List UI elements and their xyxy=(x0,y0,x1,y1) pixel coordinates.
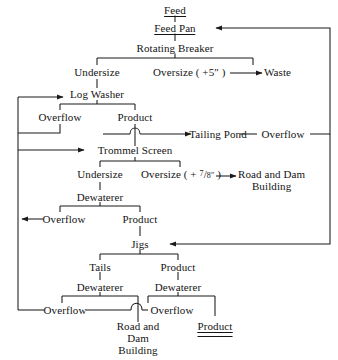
node-jigs: Jigs xyxy=(131,238,149,250)
node-dewaterer-tails: Dewaterer xyxy=(77,281,124,293)
node-feed: Feed xyxy=(164,4,186,17)
node-rotating-breaker: Rotating Breaker xyxy=(136,42,213,54)
node-product-dewaterer1: Product xyxy=(123,213,158,225)
line-trommel-split xyxy=(100,157,180,167)
node-product-jigs: Product xyxy=(161,261,196,273)
flowsheet-diagram: Feed Feed Pan Rotating Breaker Undersize… xyxy=(0,0,338,360)
node-undersize-breaker: Undersize xyxy=(74,66,120,78)
node-dewaterer-undersize: Dewaterer xyxy=(77,191,124,203)
node-feed-pan: Feed Pan xyxy=(154,22,195,35)
node-undersize-trommel: Undersize xyxy=(77,168,123,180)
node-overflow-dewaterer2: Overflow xyxy=(44,304,87,316)
line-dewaterer3-split xyxy=(148,292,215,303)
node-overflow-log-washer: Overflow xyxy=(39,111,82,123)
node-trommel-screen: Trommel Screen xyxy=(98,144,173,156)
node-road-dam-building-2: Road and Dam Building xyxy=(117,320,160,356)
line-hop-bridge-2 xyxy=(131,303,142,310)
node-overflow-dewaterer1: Overflow xyxy=(43,213,86,225)
line-overflow1-down-left xyxy=(18,124,60,133)
node-dewaterer-product: Dewaterer xyxy=(155,281,202,293)
node-log-washer: Log Washer xyxy=(70,88,124,100)
line-recycle-to-feedpan xyxy=(216,28,330,134)
node-oversize-trommel: Oversize ( + 7/8″ ) xyxy=(141,168,221,182)
line-dewaterer2-split xyxy=(62,292,138,303)
node-tailing-pond: Tailing Pond xyxy=(189,128,247,140)
node-road-dam-building-1: Road and Dam Building xyxy=(238,168,305,192)
node-oversize-breaker: Oversize ( +5″ ) xyxy=(153,66,226,78)
line-jigs-split xyxy=(100,250,178,260)
line-breaker-split xyxy=(97,54,253,66)
node-tails: Tails xyxy=(89,261,111,273)
node-waste: Waste xyxy=(264,66,291,78)
node-final-product: Product xyxy=(198,320,233,333)
line-logwasher-split xyxy=(60,100,135,110)
node-overflow-tailing-pond: Overflow xyxy=(262,128,305,140)
node-overflow-dewaterer3: Overflow xyxy=(151,304,194,316)
line-dewaterer1-split xyxy=(60,202,140,212)
node-product-log-washer: Product xyxy=(118,111,153,123)
